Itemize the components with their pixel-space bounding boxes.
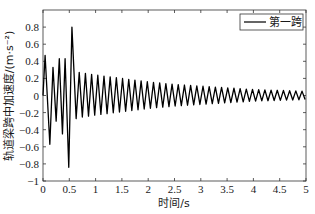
line-chart: 00.511.522.533.544.55 −1−0.8−0.6−0.4−0.2… [0,0,315,214]
legend-label: 第一跨 [269,15,302,29]
x-tick-label: 2 [145,183,151,195]
y-tick-label: 0.2 [25,72,39,84]
x-tick-label: 4.5 [273,183,287,195]
y-tick-label: 0.4 [25,55,39,67]
legend: 第一跨 [240,14,303,30]
y-tick-label: 0.8 [25,21,39,33]
y-tick-label: −0.4 [19,124,39,136]
x-tick-label: 5 [303,183,309,195]
y-tick-label: 0 [34,90,40,102]
x-tick-label: 0 [40,183,46,195]
x-tick-label: 2.5 [168,183,182,195]
x-tick-label: 3.5 [220,183,234,195]
x-axis-label: 时间/s [158,197,190,210]
y-tick-label: −0.6 [19,141,39,153]
y-axis-label: 轨道梁跨中加速度/(m·s⁻²) [2,31,16,161]
x-tick-label: 3 [198,183,204,195]
y-tick-label: −1 [27,175,39,187]
y-tick-label: 0.6 [25,38,39,50]
y-tick-label: −0.8 [19,158,39,170]
x-tick-label: 1 [93,183,99,195]
x-tick-label: 1.5 [115,183,129,195]
y-tick-label: −0.2 [19,107,39,119]
x-tick-label: 0.5 [62,183,76,195]
x-tick-label: 4 [251,183,257,195]
